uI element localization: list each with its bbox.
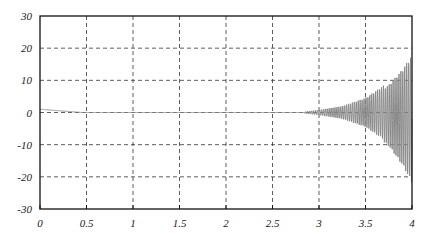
y-tick-label: -30 — [17, 203, 32, 215]
x-tick-label: 2.5 — [266, 217, 280, 229]
y-tick-label: -20 — [17, 171, 32, 183]
x-tick-label: 2 — [223, 217, 229, 229]
x-axis-tick-labels: 00.511.522.533.54 — [37, 217, 415, 229]
x-tick-label: 0 — [37, 217, 43, 229]
y-axis-tick-labels: 3020100-10-20-30 — [17, 10, 32, 215]
line-chart: 3020100-10-20-30 00.511.522.533.54 — [0, 0, 433, 236]
x-tick-label: 0.5 — [80, 217, 94, 229]
y-tick-label: 10 — [21, 74, 33, 86]
y-tick-label: -10 — [17, 139, 32, 151]
x-tick-label: 4 — [409, 217, 415, 229]
x-tick-label: 1 — [130, 217, 136, 229]
x-tick-label: 3.5 — [358, 217, 373, 229]
y-tick-label: 30 — [20, 10, 33, 22]
x-tick-label: 1.5 — [173, 217, 187, 229]
y-tick-label: 0 — [27, 107, 33, 119]
y-tick-label: 20 — [21, 42, 33, 54]
x-tick-label: 3 — [315, 217, 322, 229]
